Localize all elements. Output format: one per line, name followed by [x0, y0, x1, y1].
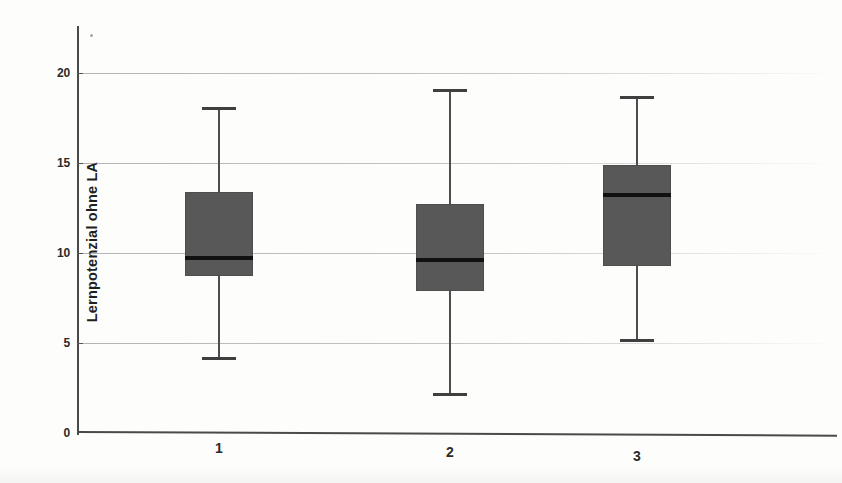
- gridline: [78, 73, 823, 74]
- y-axis-tick-label: 15: [36, 156, 70, 170]
- scan-speck: [90, 34, 93, 37]
- whisker-lower: [636, 266, 638, 340]
- whisker-upper: [636, 96, 638, 164]
- y-axis-tick-labels: 05101520: [30, 0, 70, 483]
- plot-area: [78, 28, 825, 433]
- whisker-cap-upper: [620, 96, 654, 98]
- whisker-lower: [218, 276, 220, 357]
- y-axis-tick-mark: [77, 253, 83, 254]
- y-axis-tick-label: 10: [36, 246, 70, 260]
- y-axis-tick-mark: [77, 163, 83, 164]
- x-axis-tick-label: 2: [420, 444, 480, 460]
- whisker-cap-upper: [433, 89, 467, 91]
- whisker-lower: [449, 291, 451, 394]
- y-axis-tick-label: 5: [36, 336, 70, 350]
- median-line: [416, 258, 484, 262]
- whisker-cap-lower: [433, 393, 467, 395]
- box-iqr: [416, 204, 484, 290]
- whisker-upper: [449, 89, 451, 204]
- x-axis-tick-label: 1: [189, 440, 249, 456]
- box-iqr: [185, 192, 253, 277]
- whisker-upper: [218, 107, 220, 192]
- boxplot-figure: Lernpotenzial ohne LA 05101520 123: [0, 0, 842, 483]
- scan-smudge: [0, 466, 842, 483]
- median-line: [185, 256, 253, 260]
- y-axis-tick-mark: [77, 73, 83, 74]
- x-axis-tick-label: 3: [607, 448, 667, 464]
- y-axis-tick-label: 20: [36, 66, 70, 80]
- y-axis-tick-label: 0: [36, 426, 70, 440]
- box-iqr: [603, 165, 671, 266]
- median-line: [603, 193, 671, 197]
- y-axis-tick-mark: [77, 343, 83, 344]
- whisker-cap-lower: [202, 357, 236, 359]
- y-axis-line: [77, 26, 79, 435]
- whisker-cap-upper: [202, 107, 236, 109]
- whisker-cap-lower: [620, 339, 654, 341]
